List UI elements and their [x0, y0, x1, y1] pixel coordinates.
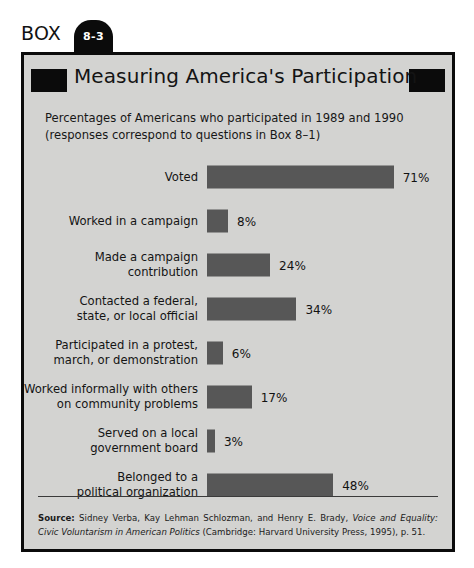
bar-value-label: 6%: [232, 346, 251, 360]
bar-category-label-line: march, or demonstration: [54, 353, 198, 368]
bar: [207, 210, 228, 233]
chart-row: Served on a localgovernment board3%: [24, 419, 452, 463]
bar-category-label-line: Voted: [165, 170, 198, 185]
bar-category-label: Served on a localgovernment board: [90, 426, 198, 456]
title-decoration-block-left: [31, 69, 67, 92]
bar-category-label-line: political organization: [77, 485, 198, 500]
bar-category-label-line: state, or local official: [77, 309, 198, 324]
bar-value-label: 71%: [403, 170, 430, 184]
source-note: Source: Sidney Verba, Kay Lehman Schlozm…: [38, 511, 438, 539]
bar-wrapper: 71%: [207, 166, 429, 189]
source-text-part-1: Sidney Verba, Kay Lehman Schlozman, and …: [75, 513, 353, 523]
bar: [207, 254, 270, 277]
chart-subtitle: Percentages of Americans who participate…: [45, 110, 404, 144]
bar-value-label: 3%: [224, 434, 243, 448]
bar: [207, 474, 333, 497]
box-tab-header: BOX 8-3: [21, 18, 271, 54]
bar: [207, 386, 252, 409]
bar-category-label-line: Worked informally with others: [24, 382, 198, 397]
bar-category-label-line: Made a campaign: [95, 250, 198, 265]
bar-category-label-line: Belonged to a: [77, 470, 198, 485]
bar-value-label: 48%: [342, 478, 369, 492]
bar-chart: Voted71%Worked in a campaign8%Made a cam…: [24, 155, 452, 507]
bar-value-label: 24%: [279, 258, 306, 272]
box-number-tab: 8-3: [74, 20, 113, 54]
box-frame: Measuring America's Participation Percen…: [21, 52, 455, 552]
bar-wrapper: 48%: [207, 474, 369, 497]
chart-subtitle-line-1: Percentages of Americans who participate…: [45, 110, 404, 127]
bar: [207, 298, 296, 321]
bar-category-label-line: contribution: [95, 265, 198, 280]
chart-row: Worked in a campaign8%: [24, 199, 452, 243]
bar-category-label-line: Served on a local: [90, 426, 198, 441]
box-number-label: 8-3: [74, 30, 113, 43]
bar-category-label: Contacted a federal,state, or local offi…: [77, 294, 198, 324]
bar: [207, 166, 394, 189]
bar-category-label-line: Worked in a campaign: [69, 214, 198, 229]
bar-category-label: Voted: [165, 170, 198, 185]
title-band: Measuring America's Participation: [24, 64, 452, 98]
source-text-part-2: (Cambridge: Harvard University Press, 19…: [200, 527, 426, 537]
bar-value-label: 17%: [261, 390, 288, 404]
bar: [207, 430, 215, 453]
bar-category-label-line: Participated in a protest,: [54, 338, 198, 353]
bar-wrapper: 17%: [207, 386, 287, 409]
bar-category-label-line: Contacted a federal,: [77, 294, 198, 309]
source-label: Source:: [38, 513, 75, 523]
bar-wrapper: 34%: [207, 298, 332, 321]
chart-subtitle-line-2: (responses correspond to questions in Bo…: [45, 127, 404, 144]
bar-category-label: Participated in a protest,march, or demo…: [54, 338, 198, 368]
box-label: BOX: [21, 22, 61, 44]
chart-row: Contacted a federal,state, or local offi…: [24, 287, 452, 331]
chart-row: Made a campaigncontribution24%: [24, 243, 452, 287]
bar-category-label: Worked informally with otherson communit…: [24, 382, 198, 412]
bar-category-label: Worked in a campaign: [69, 214, 198, 229]
bar-category-label: Made a campaigncontribution: [95, 250, 198, 280]
bar-value-label: 8%: [237, 214, 256, 228]
source-divider: [38, 496, 438, 497]
chart-row: Voted71%: [24, 155, 452, 199]
bar-wrapper: 8%: [207, 210, 256, 233]
bar-wrapper: 3%: [207, 430, 243, 453]
bar-wrapper: 24%: [207, 254, 306, 277]
chart-row: Belonged to apolitical organization48%: [24, 463, 452, 507]
bar-category-label-line: on community problems: [24, 397, 198, 412]
page-title: Measuring America's Participation: [74, 64, 402, 88]
chart-row: Participated in a protest,march, or demo…: [24, 331, 452, 375]
bar-category-label-line: government board: [90, 441, 198, 456]
chart-row: Worked informally with otherson communit…: [24, 375, 452, 419]
bar-wrapper: 6%: [207, 342, 251, 365]
bar-value-label: 34%: [305, 302, 332, 316]
bar: [207, 342, 223, 365]
